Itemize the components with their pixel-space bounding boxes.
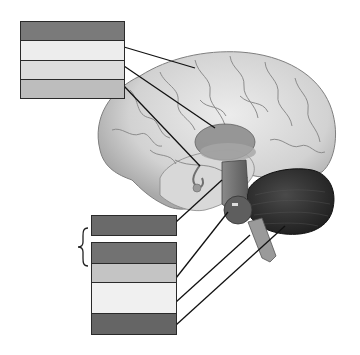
leader-line-pons bbox=[176, 212, 228, 278]
label-box-top-0[interactable] bbox=[21, 22, 124, 41]
brace-icon bbox=[78, 228, 88, 266]
label-box-cerebrum[interactable] bbox=[21, 41, 124, 60]
label-box-hypothalamus[interactable] bbox=[21, 80, 124, 98]
label-box-bottom-0[interactable] bbox=[92, 243, 176, 264]
label-group-top bbox=[20, 21, 125, 99]
label-box-thalamus[interactable] bbox=[21, 61, 124, 80]
label-box-medulla[interactable] bbox=[92, 283, 176, 314]
thalamus bbox=[195, 124, 256, 161]
leader-line-cerebellum bbox=[176, 226, 285, 325]
label-group-bottom bbox=[91, 242, 177, 335]
label-box-pons[interactable] bbox=[92, 264, 176, 283]
label-box-cerebellum[interactable] bbox=[92, 314, 176, 334]
label-box-midbrain[interactable] bbox=[91, 215, 177, 236]
